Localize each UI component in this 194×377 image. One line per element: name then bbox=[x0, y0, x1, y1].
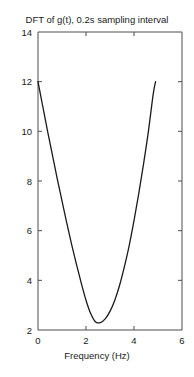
y-tick-label: 4 bbox=[27, 275, 32, 286]
y-tick-label: 8 bbox=[27, 176, 32, 187]
y-tick-label: 2 bbox=[27, 325, 32, 336]
plot-area: 0246 2468101214 bbox=[0, 0, 194, 377]
y-tick-label: 6 bbox=[27, 225, 32, 236]
y-axis-tick-labels: 2468101214 bbox=[21, 27, 32, 336]
plot-frame bbox=[38, 32, 182, 330]
x-tick-label: 6 bbox=[179, 335, 184, 346]
y-tick-label: 14 bbox=[21, 27, 32, 38]
y-tick-label: 12 bbox=[21, 76, 32, 87]
x-axis-tick-labels: 0246 bbox=[35, 335, 184, 346]
x-tick-label: 0 bbox=[35, 335, 40, 346]
x-axis-ticks bbox=[86, 32, 134, 330]
data-curve-dft-magnitude bbox=[38, 82, 156, 323]
x-tick-label: 2 bbox=[83, 335, 88, 346]
x-axis-label: Frequency (Hz) bbox=[0, 350, 194, 362]
y-axis-ticks bbox=[38, 82, 182, 281]
y-tick-label: 10 bbox=[21, 126, 32, 137]
x-tick-label: 4 bbox=[131, 335, 136, 346]
chart-figure: DFT of g(t), 0.2s sampling interval 0246… bbox=[0, 0, 194, 377]
